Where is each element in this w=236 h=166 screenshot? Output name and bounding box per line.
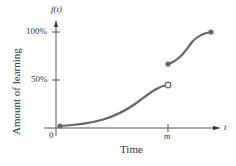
x-axis-var-label: t xyxy=(224,122,227,132)
x-axis-arrow-icon xyxy=(213,126,221,130)
curve-segment-1 xyxy=(60,85,168,126)
y-tick-label-50: 50% xyxy=(31,74,48,84)
x-tick-label-m: m xyxy=(164,131,171,141)
x-tick-label-0: 0 xyxy=(49,130,54,140)
chart: f(t) 100% 50% 0 m t Time Amount of learn… xyxy=(0,0,236,166)
start-point-filled xyxy=(57,123,62,128)
open-point xyxy=(165,82,171,88)
y-axis-title: Amount of learning xyxy=(10,48,22,135)
y-axis-arrow-icon xyxy=(54,20,58,27)
curve-segment-2 xyxy=(168,32,211,64)
end-point-filled xyxy=(208,29,213,34)
function-label: f(t) xyxy=(51,4,62,14)
jump-point-filled xyxy=(165,61,170,66)
x-axis-title: Time xyxy=(120,143,143,155)
y-tick-label-100: 100% xyxy=(26,26,47,36)
